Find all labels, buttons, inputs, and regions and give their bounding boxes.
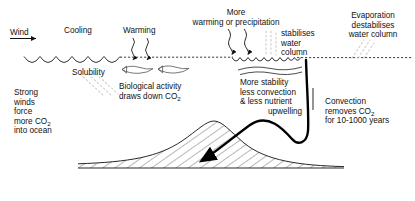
label-more-stability: More stabilityless convection& less nutr… xyxy=(240,78,302,116)
more-warming-line1: More xyxy=(227,8,246,17)
label-solubility: Solubility xyxy=(72,68,105,78)
more-stability-line4: upwelling xyxy=(240,107,302,117)
more-stability-line1: More stability xyxy=(240,78,288,87)
strong-winds-text: Strong winds force more CO xyxy=(14,88,47,126)
subsurface-waves-icon xyxy=(238,67,302,75)
label-strong-winds: Strong winds force more CO2 into ocean xyxy=(14,88,52,136)
more-stability-line3: & less nutrient xyxy=(240,97,292,106)
label-biological-activity: Biological activitydraws down CO2 xyxy=(119,82,181,101)
convection-line1: Convection xyxy=(325,97,366,106)
evaporation-line3: water column xyxy=(349,30,398,39)
convection-line3: for 10-1000 years xyxy=(325,116,389,125)
stabilises-line1: stabilises xyxy=(281,29,315,38)
convection-subscript: 2 xyxy=(371,110,374,117)
convection-line2: removes CO xyxy=(325,107,371,116)
label-stabilises-water-column: stabiliseswatercolumn xyxy=(281,29,315,58)
label-wind: Wind xyxy=(10,28,29,38)
warming-arrows-icon xyxy=(132,38,149,60)
sea-surface-icon xyxy=(24,57,301,63)
stabilises-line2: water xyxy=(281,39,301,48)
biological-subscript: 2 xyxy=(177,95,180,102)
label-evaporation: Evaporationdestabiliseswater column xyxy=(334,11,412,40)
strong-winds-subscript: 2 xyxy=(47,120,50,127)
more-warming-line2: warming or precipitation xyxy=(193,18,280,27)
strong-winds-tail: into ocean xyxy=(14,126,52,135)
evaporation-line2: destabilises xyxy=(352,21,395,30)
label-more-warming: Morewarming or precipitation xyxy=(184,8,288,27)
evaporation-line1: Evaporation xyxy=(351,11,395,20)
label-warming: Warming xyxy=(123,26,155,36)
label-convection: Convectionremoves CO2for 10-1000 years xyxy=(325,97,389,126)
seafloor-icon xyxy=(78,121,344,168)
diagram-canvas: Wind Cooling Warming Solubility Strong w… xyxy=(0,0,415,201)
evaporation-streaks-icon xyxy=(352,40,374,58)
fish-icon xyxy=(122,66,189,74)
biological-line1: Biological activity xyxy=(119,82,181,91)
precipitation-arrows-icon xyxy=(228,29,249,55)
more-stability-line2: less convection xyxy=(240,88,296,97)
label-cooling: Cooling xyxy=(64,26,92,36)
stabilises-streaks-icon xyxy=(266,31,276,55)
stabilises-line3: column xyxy=(281,48,307,57)
biological-line2: draws down CO xyxy=(119,92,177,101)
